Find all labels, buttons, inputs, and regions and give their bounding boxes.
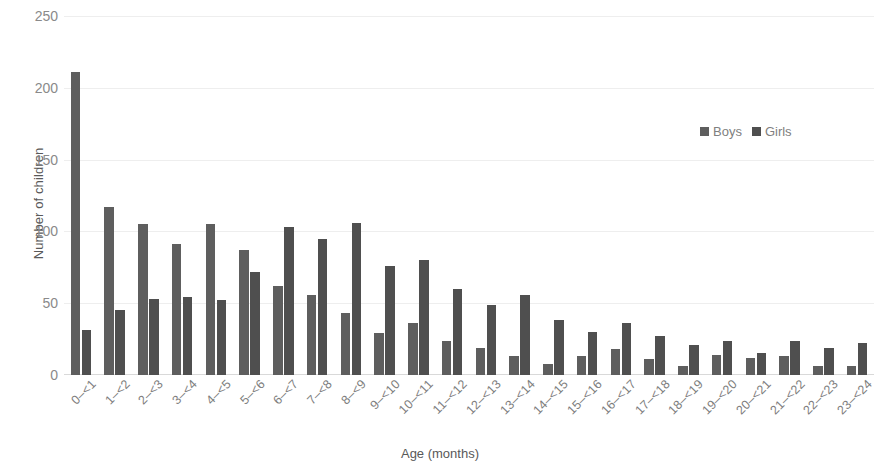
bar-girls: [689, 345, 699, 375]
bar-boys: [273, 286, 283, 375]
bar-group: [746, 16, 767, 375]
y-tick-label: 0: [2, 367, 58, 383]
bar-chart: Number of children 050100150200250 0–<11…: [0, 0, 880, 473]
bars-layer: [64, 16, 874, 375]
bar-girls: [723, 341, 733, 375]
bar-boys: [206, 224, 216, 375]
bar-group: [476, 16, 497, 375]
y-tick-label: 50: [2, 295, 58, 311]
bar-group: [442, 16, 463, 375]
bar-girls: [824, 348, 834, 375]
bar-boys: [543, 364, 553, 375]
bar-girls: [149, 299, 159, 375]
bar-girls: [318, 239, 328, 375]
bar-boys: [476, 348, 486, 375]
bar-girls: [453, 289, 463, 375]
bar-boys: [172, 244, 182, 375]
x-tick-label: 2–<3: [136, 377, 166, 407]
bar-girls: [790, 341, 800, 375]
bar-boys: [374, 333, 384, 375]
bar-girls: [858, 343, 868, 375]
x-tick-label: 19–<20: [700, 377, 740, 417]
x-tick-label: 5–<6: [237, 377, 267, 407]
bar-group: [577, 16, 598, 375]
x-tick-label: 3–<4: [170, 377, 200, 407]
bar-boys: [71, 72, 81, 375]
chart-legend: BoysGirls: [700, 124, 792, 139]
bar-boys: [408, 323, 418, 375]
x-tick-label: 0–<1: [68, 377, 98, 407]
bar-group: [206, 16, 227, 375]
bar-group: [678, 16, 699, 375]
bar-group: [239, 16, 260, 375]
bar-boys: [239, 250, 249, 375]
x-tick-label: 12–<13: [463, 377, 503, 417]
bar-boys: [779, 356, 789, 375]
legend-swatch-icon: [752, 127, 761, 136]
bar-group: [644, 16, 665, 375]
bar-boys: [644, 359, 654, 375]
bar-group: [543, 16, 564, 375]
bar-group: [779, 16, 800, 375]
bar-group: [374, 16, 395, 375]
bar-boys: [307, 295, 317, 375]
bar-group: [104, 16, 125, 375]
x-tick-label: 13–<14: [497, 377, 537, 417]
bar-group: [813, 16, 834, 375]
bar-group: [273, 16, 294, 375]
x-tick-label: 16–<17: [598, 377, 638, 417]
bar-boys: [678, 366, 688, 375]
bar-group: [341, 16, 362, 375]
x-tick-label: 20–<21: [733, 377, 773, 417]
plot-area: [64, 16, 874, 375]
x-tick-label: 8–<9: [338, 377, 368, 407]
bar-girls: [82, 330, 92, 375]
x-tick-label: 22–<23: [801, 377, 841, 417]
bar-group: [172, 16, 193, 375]
bar-group: [71, 16, 92, 375]
x-tick-label: 17–<18: [632, 377, 672, 417]
bar-girls: [183, 297, 193, 375]
x-axis-tick-labels: 0–<11–<22–<33–<44–<55–<66–<77–<88–<99–<1…: [64, 375, 874, 445]
y-tick-label: 250: [2, 8, 58, 24]
bar-boys: [611, 349, 621, 375]
bar-group: [712, 16, 733, 375]
legend-label: Girls: [765, 124, 792, 139]
bar-girls: [217, 300, 227, 375]
bar-group: [847, 16, 868, 375]
bar-boys: [813, 366, 823, 375]
bar-group: [509, 16, 530, 375]
bar-girls: [757, 353, 767, 375]
bar-girls: [520, 295, 530, 375]
x-tick-label: 23–<24: [835, 377, 875, 417]
bar-group: [138, 16, 159, 375]
legend-label: Boys: [713, 124, 742, 139]
x-tick-label: 21–<22: [767, 377, 807, 417]
x-tick-label: 4–<5: [203, 377, 233, 407]
legend-entry-boys[interactable]: Boys: [700, 124, 742, 139]
bar-group: [307, 16, 328, 375]
x-tick-label: 7–<8: [305, 377, 335, 407]
bar-group: [611, 16, 632, 375]
y-tick-label: 100: [2, 223, 58, 239]
bar-girls: [115, 310, 125, 375]
bar-boys: [577, 356, 587, 375]
bar-girls: [655, 336, 665, 375]
x-tick-label: 6–<7: [271, 377, 301, 407]
bar-girls: [588, 332, 598, 375]
bar-boys: [442, 341, 452, 375]
bar-girls: [352, 223, 362, 375]
x-tick-label: 1–<2: [102, 377, 132, 407]
bar-girls: [250, 272, 260, 375]
bar-girls: [622, 323, 632, 375]
y-axis-tick-labels: 050100150200250: [0, 0, 58, 473]
bar-girls: [385, 266, 395, 375]
x-tick-label: 15–<16: [565, 377, 605, 417]
y-tick-label: 200: [2, 80, 58, 96]
bar-girls: [419, 260, 429, 375]
bar-boys: [712, 355, 722, 375]
bar-girls: [284, 227, 294, 375]
bar-boys: [847, 366, 857, 375]
bar-boys: [746, 358, 756, 375]
legend-entry-girls[interactable]: Girls: [752, 124, 792, 139]
